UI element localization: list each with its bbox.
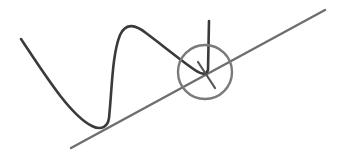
normal-tick: [198, 62, 215, 88]
diagram-canvas: [0, 0, 340, 163]
curve: [21, 21, 209, 128]
tangent-line: [71, 10, 325, 148]
